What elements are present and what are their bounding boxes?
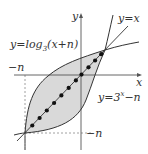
lattice-dot	[79, 73, 83, 77]
exp-curve-label: y=3x−n	[97, 90, 141, 104]
lattice-dot	[74, 78, 78, 82]
log-label-arg: (x+n)	[47, 38, 78, 51]
math-diagram: y x y=x y=log3(x+n) y=3x−n −n −n	[0, 0, 148, 154]
lattice-dot	[67, 86, 71, 90]
svg-text:y=log3(x+n): y=log3(x+n)	[9, 38, 78, 53]
neg-n-x-label: −n	[8, 61, 24, 74]
identity-line-label: y=x	[117, 12, 140, 25]
svg-text:y=3x−n: y=3x−n	[97, 90, 141, 104]
exp-label-suffix: −n	[124, 91, 140, 104]
lattice-dot	[59, 93, 63, 97]
y-axis-label: y	[71, 10, 79, 23]
log-curve-label: y=log3(x+n)	[9, 38, 78, 53]
lattice-dot	[38, 116, 42, 120]
y-axis-arrow-icon	[79, 13, 83, 18]
lattice-dot	[86, 65, 90, 69]
neg-n-y-label: −n	[86, 127, 102, 140]
lattice-dot	[93, 58, 97, 62]
x-axis-label: x	[136, 76, 143, 89]
lattice-dot	[99, 52, 103, 56]
exp-label-prefix: y=3	[97, 91, 120, 104]
log-label-prefix: y=log	[9, 38, 43, 51]
lattice-dot	[30, 123, 34, 127]
lattice-dot	[52, 101, 56, 105]
lattice-dot	[45, 108, 49, 112]
